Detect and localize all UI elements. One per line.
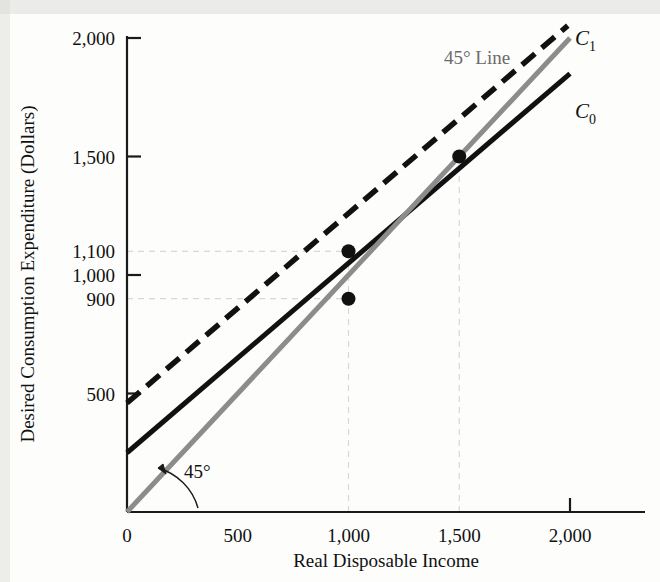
- consumption-function-chart: 5009001,0001,1001,5002,000 05001,0001,50…: [0, 0, 660, 582]
- x-tick-label-500: 500: [224, 525, 253, 546]
- series-line-c-1: [127, 26, 568, 403]
- x-tick-label-1000: 1,000: [327, 525, 370, 546]
- data-points: [342, 150, 467, 306]
- series-label-c1-base: C: [575, 26, 590, 50]
- y-tick-label-1100: 1,100: [72, 241, 115, 262]
- y-tick-label-900: 900: [87, 289, 116, 310]
- y-tick-label-1500: 1,500: [72, 147, 115, 168]
- x-axis-title: Real Disposable Income: [293, 550, 479, 571]
- y-tick-label-2000: 2,000: [72, 28, 115, 49]
- series-label-c1-subscript: 1: [589, 39, 596, 54]
- series-end-label-c1: C 1: [575, 26, 596, 54]
- series-label-c0-base: C: [575, 99, 590, 123]
- point-c1-equilibrium: [452, 150, 466, 164]
- x-tick-label-1500: 1,500: [438, 525, 481, 546]
- x-tick-label-2000: 2,000: [549, 525, 592, 546]
- x-axis-tick-labels: 05001,0001,5002,000: [122, 525, 591, 546]
- series-line-c-0: [127, 74, 570, 453]
- y-tick-label-500: 500: [87, 384, 116, 405]
- forty-five-line-label: 45° Line: [444, 47, 510, 68]
- y-axis-title: Desired Consumption Expenditure (Dollars…: [17, 105, 39, 442]
- figure-canvas: 5009001,0001,1001,5002,000 05001,0001,50…: [0, 0, 660, 582]
- series-end-label-c0: C 0: [575, 99, 596, 127]
- axes: [127, 36, 645, 512]
- y-axis-ticks: [127, 38, 141, 394]
- angle-annotation-label: 45°: [184, 461, 211, 482]
- y-tick-label-1000: 1,000: [72, 265, 115, 286]
- x-tick-label-0: 0: [122, 525, 132, 546]
- y-axis-tick-labels: 5009001,0001,1001,5002,000: [72, 28, 115, 405]
- point-c1-at-1000: [342, 244, 356, 258]
- series-label-c0-subscript: 0: [589, 112, 596, 127]
- point-c0-at-1000: [342, 292, 356, 306]
